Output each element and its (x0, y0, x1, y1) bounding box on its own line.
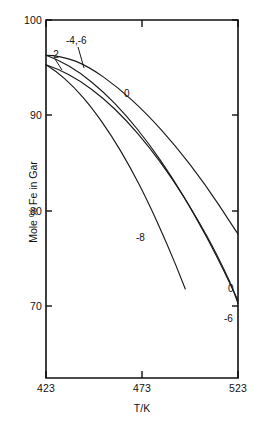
curve-minus8 (46, 65, 185, 289)
y-tick-labels: 100 90 80 70 (24, 14, 42, 312)
y-tick-label-70: 70 (30, 300, 42, 312)
curve-label-minus8: -8 (136, 232, 145, 243)
curve-zero (46, 55, 238, 300)
line-chart: 100 90 80 70 423 473 523 T/K -4,-6 (0, 0, 264, 429)
y-axis-ticks (46, 20, 238, 306)
y-tick-label-100: 100 (24, 14, 42, 26)
x-tick-label-523: 523 (229, 382, 247, 394)
x-tick-label-473: 473 (133, 382, 151, 394)
x-tick-label-423: 423 (37, 382, 55, 394)
x-tick-labels: 423 473 523 (37, 382, 247, 394)
figure-container: 100 90 80 70 423 473 523 T/K -4,-6 (0, 0, 264, 429)
y-tick-label-90: 90 (30, 109, 42, 121)
y-tick-label-80: 80 (30, 205, 42, 217)
curve-minus2 (46, 65, 238, 304)
curve-label-zero-right: 0 (228, 283, 234, 294)
x-axis-ticks (46, 20, 238, 378)
curve-label-minus6-right: -6 (224, 313, 233, 324)
axis-frame (46, 20, 238, 378)
curve-minus4-minus6 (46, 55, 238, 234)
annotation-minus4-minus6: -4,-6 (66, 35, 87, 68)
curve-label-minus4-minus6: -4,-6 (66, 35, 87, 46)
x-axis-label: T/K (134, 402, 150, 414)
curve-label-minus2: -2 (50, 49, 59, 60)
curve-label-zero-mid: 0 (124, 88, 130, 99)
